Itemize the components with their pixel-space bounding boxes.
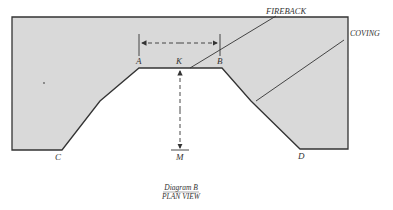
label-c: C xyxy=(55,152,62,162)
label-a: A xyxy=(135,56,142,66)
label-k: K xyxy=(175,56,183,66)
plan-view-diagram: A K B C D M FIREBACK COVING Diagram B PL… xyxy=(0,0,393,210)
caption-subtitle: PLAN VIEW xyxy=(161,192,201,201)
label-b: B xyxy=(217,56,223,66)
caption-title: Diagram B xyxy=(163,183,198,192)
speck xyxy=(43,82,45,84)
label-fireback: FIREBACK xyxy=(265,6,307,16)
label-d: D xyxy=(297,151,305,161)
label-m: M xyxy=(175,152,184,162)
label-coving: COVING xyxy=(350,29,380,38)
hearth-body xyxy=(12,17,348,150)
